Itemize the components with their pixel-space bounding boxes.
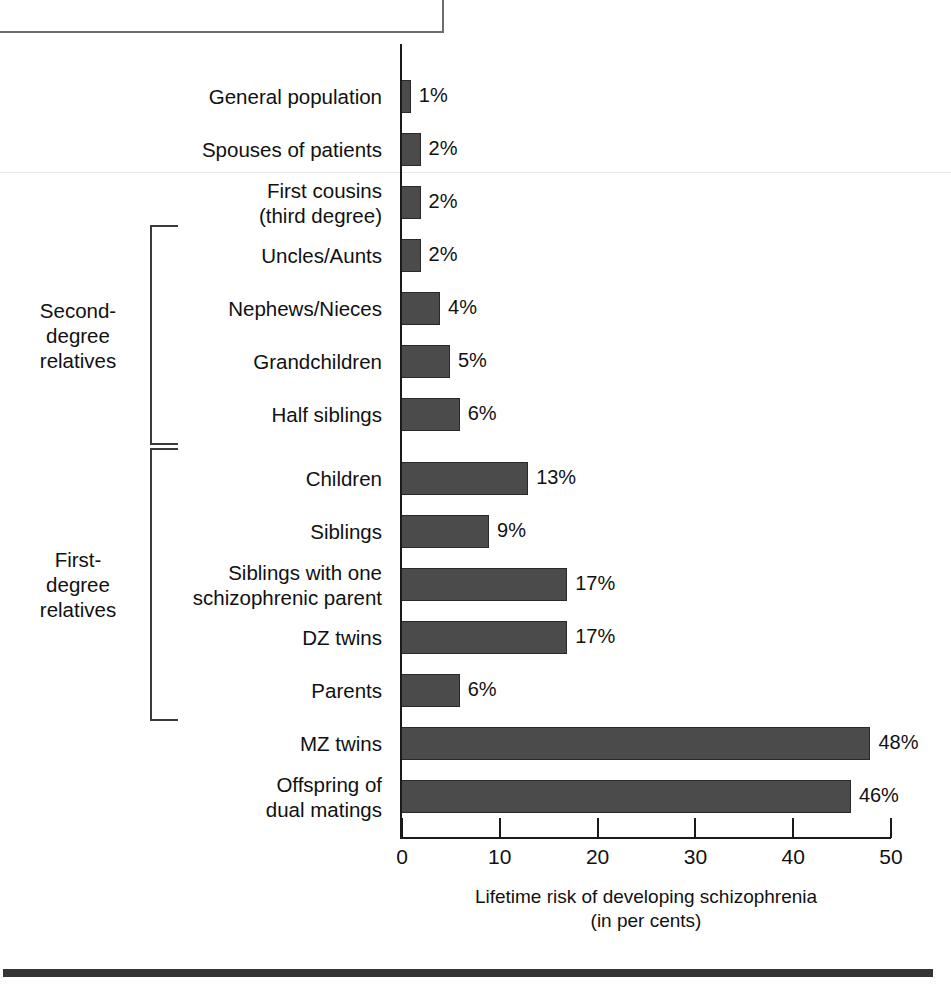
category-label-line: (third degree) xyxy=(0,203,382,228)
category-label-line: Offspring of xyxy=(0,772,382,797)
bar xyxy=(401,727,870,760)
x-axis-tick xyxy=(401,818,403,838)
y-axis-line xyxy=(400,44,402,839)
x-axis-caption-line2: (in per cents) xyxy=(401,909,891,933)
x-axis-caption-line1: Lifetime risk of developing schizophreni… xyxy=(401,885,891,909)
category-label: Children xyxy=(0,466,400,491)
bar-value-label: 4% xyxy=(448,296,477,319)
bar-value-label: 9% xyxy=(497,519,526,542)
category-label: Parents xyxy=(0,678,400,703)
bar xyxy=(401,621,567,654)
group-label-second-degree: Second-degreerelatives xyxy=(8,298,148,373)
category-label: Siblings xyxy=(0,519,400,544)
category-label: First cousins(third degree) xyxy=(0,178,400,228)
x-axis-line xyxy=(400,837,891,839)
category-label: Spouses of patients xyxy=(0,137,400,162)
category-label-line: First cousins xyxy=(0,178,382,203)
bar-value-label: 5% xyxy=(458,349,487,372)
category-label-line: Siblings xyxy=(0,519,382,544)
category-label-line: Parents xyxy=(0,678,382,703)
bar xyxy=(401,568,567,601)
category-label-line: Uncles/Aunts xyxy=(0,243,382,268)
group-label-line: Second- xyxy=(8,298,148,323)
bar xyxy=(401,345,450,378)
page-footer-rule xyxy=(3,969,933,977)
category-label-line: DZ twins xyxy=(0,625,382,650)
bar xyxy=(401,186,421,219)
bar-value-label: 48% xyxy=(878,731,918,754)
bar xyxy=(401,674,460,707)
bar-value-label: 2% xyxy=(429,243,458,266)
x-axis-tick-label: 30 xyxy=(665,845,725,869)
bar xyxy=(401,239,421,272)
category-label-line: General population xyxy=(0,84,382,109)
bar-value-label: 13% xyxy=(536,466,576,489)
bar-value-label: 6% xyxy=(468,402,497,425)
x-axis-tick-label: 20 xyxy=(568,845,628,869)
group-label-line: degree xyxy=(8,572,148,597)
group-bracket-second-degree xyxy=(150,225,178,445)
figure-panel: THE RISK OF DEVELOPING SCHIZOPHRENIA Gen… xyxy=(0,0,951,991)
group-label-line: degree xyxy=(8,323,148,348)
bar-value-label: 46% xyxy=(859,784,899,807)
x-axis-tick xyxy=(499,818,501,838)
category-label: Uncles/Aunts xyxy=(0,243,400,268)
category-label-line: MZ twins xyxy=(0,731,382,756)
group-label-line: relatives xyxy=(8,597,148,622)
category-label: Offspring ofdual matings xyxy=(0,772,400,822)
x-axis-tick-label: 50 xyxy=(861,845,921,869)
category-label: Half siblings xyxy=(0,402,400,427)
bar xyxy=(401,462,528,495)
group-label-line: First- xyxy=(8,547,148,572)
x-axis-caption: Lifetime risk of developing schizophreni… xyxy=(401,885,891,933)
bar-value-label: 17% xyxy=(575,625,615,648)
category-label-line: Spouses of patients xyxy=(0,137,382,162)
bar xyxy=(401,292,440,325)
x-axis-tick xyxy=(890,818,892,838)
group-label-first-degree: First-degreerelatives xyxy=(8,547,148,622)
category-label: DZ twins xyxy=(0,625,400,650)
x-axis-tick xyxy=(792,818,794,838)
group-bracket-first-degree xyxy=(150,448,178,721)
x-axis-tick-label: 10 xyxy=(470,845,530,869)
x-axis-tick-label: 40 xyxy=(763,845,823,869)
bar xyxy=(401,780,851,813)
x-axis-tick-label: 0 xyxy=(372,845,432,869)
bar xyxy=(401,80,411,113)
category-label: General population xyxy=(0,84,400,109)
category-label-line: Half siblings xyxy=(0,402,382,427)
category-label-line: dual matings xyxy=(0,797,382,822)
section-divider xyxy=(0,172,951,173)
figure-title-box: THE RISK OF DEVELOPING SCHIZOPHRENIA xyxy=(0,0,444,33)
bar-value-label: 6% xyxy=(468,678,497,701)
bar-value-label: 1% xyxy=(419,84,448,107)
x-axis-tick xyxy=(694,818,696,838)
bar xyxy=(401,133,421,166)
bar-value-label: 17% xyxy=(575,572,615,595)
category-label-line: Children xyxy=(0,466,382,491)
x-axis-tick xyxy=(597,818,599,838)
bar xyxy=(401,398,460,431)
group-label-line: relatives xyxy=(8,348,148,373)
bar-value-label: 2% xyxy=(429,190,458,213)
bar xyxy=(401,515,489,548)
category-label: MZ twins xyxy=(0,731,400,756)
bar-value-label: 2% xyxy=(429,137,458,160)
